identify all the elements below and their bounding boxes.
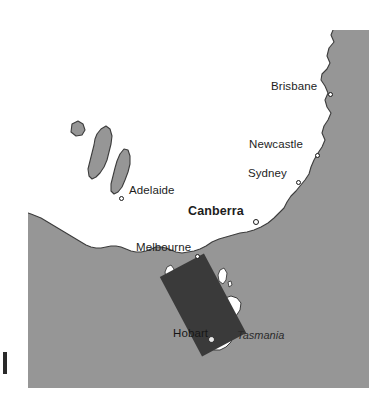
city-dot-adelaide (119, 196, 124, 201)
locator-map: Brisbane Newcastle Sydney Canberra Adela… (28, 30, 369, 388)
city-label-hobart: Hobart (173, 327, 208, 339)
city-dot-newcastle (315, 153, 320, 158)
city-label-sydney: Sydney (248, 167, 287, 179)
city-dot-canberra (253, 219, 259, 225)
city-dot-melbourne (195, 254, 200, 259)
city-dot-brisbane (328, 92, 333, 97)
city-label-melbourne: Melbourne (136, 241, 191, 253)
page-edge-artifact (3, 352, 7, 374)
city-label-adelaide: Adelaide (129, 184, 175, 196)
city-label-canberra: Canberra (188, 205, 244, 217)
city-label-brisbane: Brisbane (271, 80, 317, 92)
city-dot-hobart (209, 337, 214, 342)
city-label-newcastle: Newcastle (249, 138, 303, 150)
city-dot-sydney (296, 180, 301, 185)
region-label-tasmania: Tasmania (237, 329, 284, 341)
